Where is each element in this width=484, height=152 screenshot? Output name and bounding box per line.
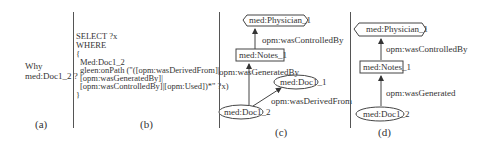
node-notes: med:Notes_1	[239, 50, 287, 60]
node-physician: med:Physician_1	[366, 24, 428, 34]
edge-controlled-by: opm:wasControlledBy	[262, 35, 344, 45]
caption-d: (d)	[378, 126, 391, 138]
edge-derived-from: opm:wasDerivedFrom	[271, 96, 352, 106]
divider-cd	[350, 12, 351, 128]
edge-controlled-by: opm:wasControlledBy	[386, 44, 468, 54]
edge-generated-by: opm:wasGeneratedBy	[219, 67, 299, 77]
node-doc1-1: med:Doc1_1	[280, 77, 327, 87]
caption-c: (c)	[275, 126, 287, 138]
edge-generated: opm:wasGenerated	[386, 88, 455, 98]
node-notes: med:Notes_1	[363, 62, 411, 72]
node-doc1-2: med:Doc1_2	[363, 109, 410, 119]
node-doc1-2: med:Doc1_2	[224, 107, 271, 117]
node-physician: med:Physician_1	[249, 15, 311, 25]
